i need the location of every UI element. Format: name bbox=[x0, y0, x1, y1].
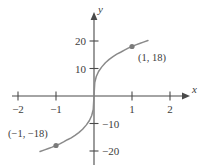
x-axis bbox=[12, 93, 190, 100]
x-axis-arrowhead bbox=[182, 93, 190, 100]
point-label-negative: (−1, −18) bbox=[8, 129, 48, 140]
plot-canvas bbox=[0, 0, 202, 168]
y-tick-label: 20 bbox=[46, 36, 86, 47]
x-tick-label: −1 bbox=[36, 104, 76, 115]
y-tick-label: −20 bbox=[102, 146, 119, 157]
data-point-dot bbox=[129, 44, 134, 49]
y-axis-arrowhead bbox=[91, 12, 98, 20]
y-tick-label: −10 bbox=[102, 119, 119, 130]
point-label-positive: (1, 18) bbox=[138, 53, 166, 64]
y-tick-label: 10 bbox=[46, 64, 86, 75]
x-axis-label: x bbox=[192, 84, 197, 95]
x-tick-label: 1 bbox=[112, 104, 152, 115]
y-axis-label: y bbox=[98, 4, 103, 15]
x-tick-label: −2 bbox=[0, 104, 38, 115]
x-tick-label: 2 bbox=[150, 104, 190, 115]
data-point-dot bbox=[53, 143, 58, 148]
graph-figure: −2 −1 1 2 20 10 −10 −20 x y (1, 18) (−1,… bbox=[0, 0, 202, 168]
